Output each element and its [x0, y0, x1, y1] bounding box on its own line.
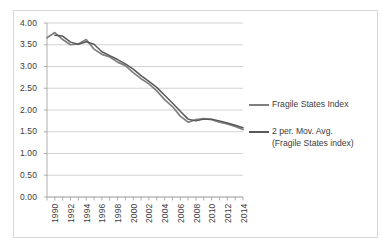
- legend-label-series-1: Fragile States Index: [272, 99, 348, 111]
- y-tick-label: 0.00: [9, 192, 37, 202]
- y-tick-label: 4.00: [9, 18, 37, 28]
- y-tick-label: 2.00: [9, 105, 37, 115]
- x-tick-label: 2010: [207, 204, 217, 223]
- legend-label-series-2: 2 per. Mov. Avg. (Fragile States index): [272, 126, 354, 149]
- x-tick-label: 1992: [66, 204, 76, 223]
- legend-label-series-2-line1: 2 per. Mov. Avg.: [272, 126, 333, 136]
- x-tick-marks: [47, 197, 243, 201]
- legend-label-series-2-line2: (Fragile States index): [272, 138, 354, 150]
- series-line-1: [47, 33, 243, 130]
- x-tick-label: 2012: [223, 204, 233, 223]
- series-line-2: [55, 35, 243, 128]
- data-series: [47, 33, 243, 130]
- legend-swatch-series-1: [249, 104, 269, 106]
- y-tick-label: 3.50: [9, 39, 37, 49]
- y-tick-label: 3.00: [9, 61, 37, 71]
- x-tick-label: 2006: [176, 204, 186, 223]
- gridlines: [47, 23, 243, 197]
- legend-swatch-series-2: [249, 131, 269, 133]
- y-tick-label: 1.00: [9, 148, 37, 158]
- y-tick-label: 1.50: [9, 126, 37, 136]
- x-tick-label: 2014: [239, 204, 249, 223]
- chart-container: 4.003.503.002.502.001.501.000.500.00 199…: [0, 0, 390, 249]
- x-tick-label: 2008: [192, 204, 202, 223]
- x-tick-label: 2000: [129, 204, 139, 223]
- x-tick-label: 2002: [144, 204, 154, 223]
- y-tick-label: 2.50: [9, 83, 37, 93]
- y-tick-label: 0.50: [9, 170, 37, 180]
- x-tick-label: 2004: [160, 204, 170, 223]
- x-tick-label: 1996: [97, 204, 107, 223]
- legend-label-series-1-line1: Fragile States Index: [272, 99, 348, 109]
- x-tick-label: 1998: [113, 204, 123, 223]
- x-tick-label: 1990: [50, 204, 60, 223]
- x-tick-label: 1994: [82, 204, 92, 223]
